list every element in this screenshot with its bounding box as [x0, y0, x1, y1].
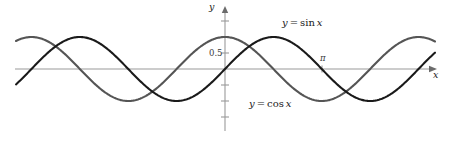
sine-label-equals: =: [288, 17, 300, 28]
cosine-curve-label: y=cos x: [249, 99, 291, 109]
cosine-label-argument: x: [286, 98, 292, 109]
x-axis-label: x: [433, 70, 438, 80]
sine-label-function: sin: [300, 17, 315, 28]
trig-graph-figure: y x 0.5 π y=sin x y=cos x: [0, 0, 449, 142]
sine-label-variable: y: [282, 17, 288, 28]
cosine-label-variable: y: [249, 98, 255, 109]
cosine-label-equals: =: [255, 98, 267, 109]
sine-cosine-plot: [0, 0, 449, 142]
cosine-label-function: cos: [267, 98, 284, 109]
y-tick-label-half: 0.5: [209, 49, 223, 58]
sine-curve-label: y=sin x: [282, 18, 322, 28]
sine-label-argument: x: [317, 17, 323, 28]
x-tick-label-pi: π: [320, 54, 326, 63]
y-axis-label: y: [209, 2, 214, 12]
